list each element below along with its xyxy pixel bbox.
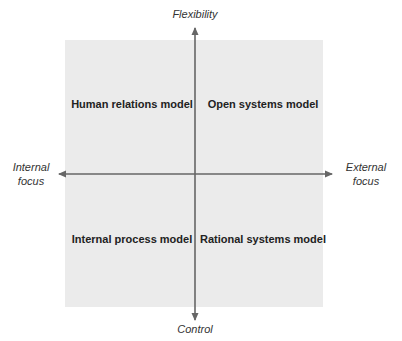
quadrant-open-systems: Open systems model bbox=[198, 97, 328, 112]
quadrant-internal-process: Internal process model bbox=[67, 232, 197, 247]
axis-label-top: Flexibility bbox=[145, 7, 245, 21]
axis-label-right: External focus bbox=[334, 160, 398, 188]
axis-label-bottom: Control bbox=[145, 322, 245, 336]
quadrant-rational-systems: Rational systems model bbox=[198, 232, 328, 247]
axis-label-left: Internal focus bbox=[0, 160, 62, 188]
quadrant-human-relations: Human relations model bbox=[67, 97, 197, 112]
